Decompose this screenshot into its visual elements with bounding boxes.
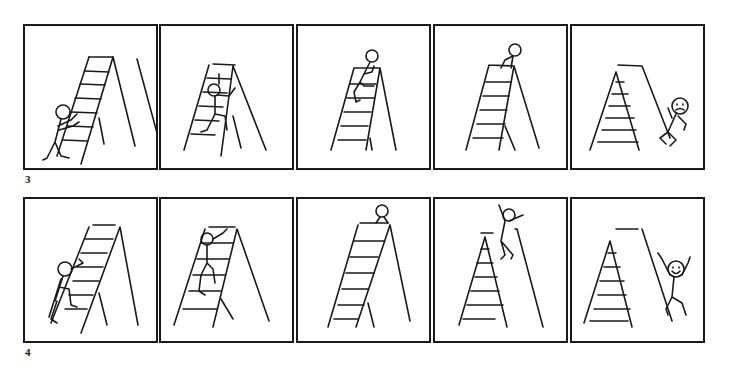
ladder-climb-illustration (161, 199, 292, 341)
ladder-climb-illustration (435, 26, 566, 168)
ladder-climb-illustration (25, 199, 156, 341)
comic-panel-row3-2 (159, 24, 294, 170)
row-label: 3 (25, 173, 31, 185)
ladder-climb-illustration (298, 26, 429, 168)
comic-panel-row4-3 (296, 197, 431, 343)
comic-panel-row4-1 (23, 197, 158, 343)
ladder-landed-illustration (572, 199, 703, 341)
ladder-climb-illustration (161, 26, 292, 168)
ladder-climb-illustration (25, 26, 156, 168)
comic-panel-row4-2 (159, 197, 294, 343)
comic-panel-row3-3 (296, 24, 431, 170)
comic-panel-row3-1 (23, 24, 158, 170)
comic-panel-row3-5 (570, 24, 705, 170)
ladder-top-illustration (298, 199, 429, 341)
row-label: 4 (25, 346, 31, 358)
ladder-jump-illustration (435, 199, 566, 341)
comic-panel-row3-4 (433, 24, 568, 170)
ladder-fall-illustration (572, 26, 703, 168)
comic-panel-row4-5 (570, 197, 705, 343)
comic-panel-row4-4 (433, 197, 568, 343)
